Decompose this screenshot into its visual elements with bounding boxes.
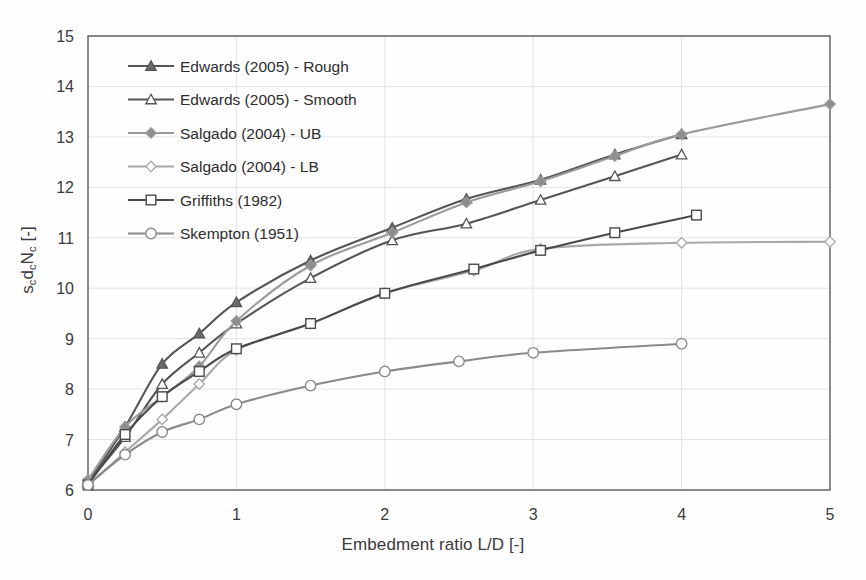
y-tick-label: 7 [65,432,74,449]
series-marker-5 [676,339,686,349]
series-marker-3 [676,238,686,248]
series-marker-0 [231,297,241,306]
series-marker-1 [676,149,686,158]
series-marker-4 [195,367,205,377]
x-tick-label: 4 [677,506,686,523]
legend-label-2: Salgado (2004) - UB [180,125,321,142]
legend-label-1: Edwards (2005) - Smooth [180,91,357,108]
series-marker-4 [232,344,242,354]
x-tick-label: 3 [529,506,538,523]
legend-label-0: Edwards (2005) - Rough [180,58,349,75]
legend-marker-5 [146,228,156,238]
series-marker-5 [528,348,538,358]
chart-figure: 6789101112131415012345Edwards (2005) - R… [0,0,866,580]
series-marker-4 [536,246,546,256]
series-marker-5 [231,399,241,409]
series-marker-5 [305,380,315,390]
series-marker-4 [469,264,479,274]
series-marker-4 [306,319,316,329]
series-marker-4 [692,210,702,220]
x-tick-label: 0 [84,506,93,523]
y-tick-label: 13 [56,129,74,146]
x-tick-label: 5 [826,506,835,523]
series-marker-4 [157,392,167,402]
series-line-4 [88,215,696,485]
series-marker-5 [454,356,464,366]
series-marker-2 [825,99,835,109]
series-marker-5 [83,480,93,490]
series-marker-4 [380,288,390,298]
y-tick-label: 15 [56,28,74,45]
legend-label-5: Skempton (1951) [180,225,299,242]
y-tick-label: 12 [56,179,74,196]
series-marker-5 [380,366,390,376]
y-tick-label: 10 [56,280,74,297]
series-marker-5 [194,414,204,424]
legend-marker-4 [146,195,156,205]
y-tick-label: 6 [65,482,74,499]
y-tick-label: 11 [57,230,74,247]
series-marker-1 [305,273,315,282]
x-axis-title: Embedment ratio L/D [-] [0,535,866,555]
series-marker-4 [120,430,130,440]
legend-label-3: Salgado (2004) - LB [180,158,319,175]
series-marker-5 [157,427,167,437]
y-tick-label: 8 [65,381,74,398]
y-tick-label: 9 [65,331,74,348]
legend-label-4: Griffiths (1982) [180,192,282,209]
series-marker-4 [610,228,620,238]
y-axis-title-text: scdcNc [-] [18,226,37,294]
x-tick-label: 1 [232,506,241,523]
y-tick-label: 14 [56,78,74,95]
legend-marker-3 [146,161,156,171]
series-marker-5 [120,449,130,459]
y-axis-title: scdcNc [-] [18,160,38,360]
plot-canvas: 6789101112131415012345Edwards (2005) - R… [0,0,866,580]
x-tick-label: 2 [380,506,389,523]
